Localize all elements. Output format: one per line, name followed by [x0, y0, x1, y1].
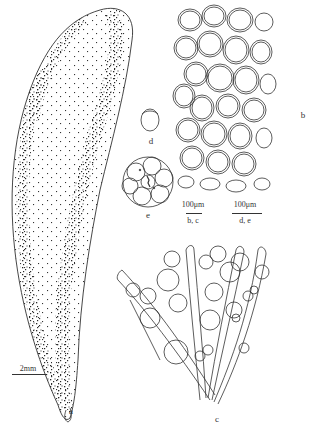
scale-bar-2mm: [12, 374, 46, 375]
panel-label-d: d: [146, 136, 156, 146]
panel-a-thallus: [12, 8, 133, 422]
panel-label-e: e: [143, 210, 153, 220]
scale-bar-label-2mm: 2mm: [10, 364, 46, 373]
panel-e-colony: [122, 157, 173, 207]
panel-d-cell: [141, 109, 159, 131]
panel-label-b: b: [298, 110, 308, 120]
scale-bar-label-bc: 100μm: [178, 200, 208, 209]
scale-bar-de: [232, 213, 262, 214]
panel-label-a: a: [66, 406, 76, 416]
figure-plate: [0, 0, 313, 427]
scale-bar-bc: [186, 213, 202, 214]
panel-b-cell-network: [173, 5, 276, 192]
scale-bar-label-de: 100μm: [228, 200, 262, 209]
panel-c-filaments: [117, 246, 269, 405]
panel-label-c: c: [212, 414, 222, 424]
scale-bar-applies-bc: b, c: [178, 216, 208, 225]
scale-bar-applies-de: d, e: [228, 216, 262, 225]
